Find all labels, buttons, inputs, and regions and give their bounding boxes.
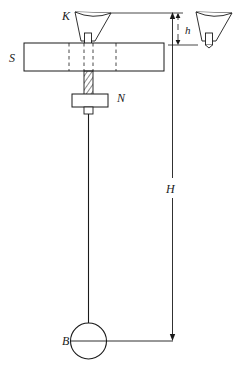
dimension-arrow-H-icon <box>170 12 175 341</box>
label-support-S: S <box>9 52 15 64</box>
label-drop-height-h: h <box>185 25 191 36</box>
sphere-icon <box>70 323 173 359</box>
nut-collar-icon <box>84 107 93 114</box>
threaded-rod-icon <box>84 71 93 95</box>
diagram-canvas <box>0 0 237 377</box>
label-ball-B: B <box>62 335 69 347</box>
physics-apparatus-diagram: K S N h H B <box>0 0 237 377</box>
hammer-displaced-tip-icon <box>206 33 213 45</box>
label-total-height-H: H <box>166 183 175 195</box>
arrow-down-H <box>170 334 175 341</box>
label-nut-N: N <box>117 92 125 104</box>
hammer-wedge-displaced-icon <box>196 12 232 48</box>
support-block-icon <box>24 43 164 71</box>
nut-block-icon <box>72 94 108 114</box>
label-hammer-K: K <box>62 10 70 22</box>
arrow-up-h <box>176 13 181 18</box>
arrow-down-h <box>176 40 181 45</box>
